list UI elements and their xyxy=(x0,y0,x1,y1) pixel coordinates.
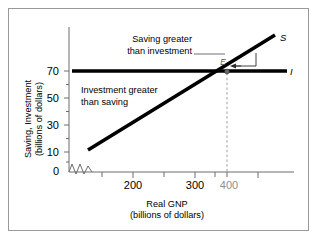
figure-root: 70 50 30 10 0 200 300 400 Real GNP (bill… xyxy=(0,0,317,239)
annotation-saving-greater-line1: Saving greater xyxy=(132,34,192,44)
y-tick-label-50: 50 xyxy=(47,92,59,104)
equilibrium-label: E xyxy=(220,58,226,67)
x-axis-title-line1: Real GNP xyxy=(146,199,187,209)
y-tick-label-0: 0 xyxy=(53,165,59,177)
y-axis-title-line1: Saving, Investment xyxy=(23,79,33,158)
x-tick-label-200: 200 xyxy=(124,179,142,191)
annotation-investment-greater-line1: Investment greater xyxy=(81,85,158,95)
x-axis-title-line2: (billions of dollars) xyxy=(130,210,204,220)
y-axis-title-line2: (billions of dollars) xyxy=(34,82,44,156)
equilibrium-point xyxy=(225,69,230,74)
annotation-saving-greater-line2: than investment xyxy=(127,46,192,56)
y-tick-label-10: 10 xyxy=(47,146,59,158)
x-tick-label-300: 300 xyxy=(186,179,204,191)
figure-border-frame: 70 50 30 10 0 200 300 400 Real GNP (bill… xyxy=(8,8,309,231)
investment-curve-label: I xyxy=(290,66,293,77)
x-tick-label-400: 400 xyxy=(220,179,238,191)
y-tick-label-70: 70 xyxy=(47,65,59,77)
y-tick-label-30: 30 xyxy=(47,119,59,131)
annotation-investment-greater-line2: than saving xyxy=(81,97,128,107)
saving-investment-chart: 70 50 30 10 0 200 300 400 Real GNP (bill… xyxy=(9,9,308,230)
saving-curve-label: S xyxy=(280,32,287,43)
